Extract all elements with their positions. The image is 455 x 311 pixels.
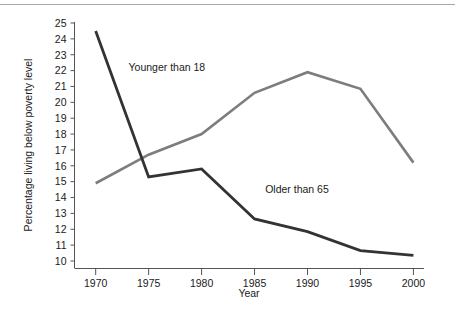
y-axis-title: Percentage living below poverty level <box>22 59 34 232</box>
series-annotation-younger-than-18: Younger than 18 <box>129 61 206 73</box>
y-axis-group: 10111213141516171819202122232425 Percent… <box>22 17 75 268</box>
x-tick-label: 1980 <box>190 277 214 289</box>
series-line-younger-than-18 <box>96 72 414 183</box>
line-chart-canvas: 10111213141516171819202122232425 Percent… <box>0 0 455 311</box>
chart-figure: 10111213141516171819202122232425 Percent… <box>0 0 455 311</box>
x-tick-label: 1990 <box>296 277 320 289</box>
y-tick-label: 18 <box>55 128 67 140</box>
y-axis-ticks <box>71 23 75 261</box>
x-tick-label: 1970 <box>84 277 108 289</box>
y-axis-tick-labels: 10111213141516171819202122232425 <box>55 17 67 267</box>
y-tick-label: 24 <box>55 33 67 45</box>
y-tick-label: 14 <box>55 191 67 203</box>
y-tick-label: 17 <box>55 144 67 156</box>
series-annotation-older-than-65: Older than 65 <box>265 183 329 195</box>
x-axis-group: 1970197519801985199019952000 Year <box>75 269 426 300</box>
y-tick-label: 22 <box>55 64 67 76</box>
y-tick-label: 19 <box>55 112 67 124</box>
y-tick-label: 25 <box>55 17 67 29</box>
x-axis-ticks <box>96 269 414 276</box>
y-tick-label: 10 <box>55 255 67 267</box>
y-tick-label: 15 <box>55 175 67 187</box>
x-tick-label: 1995 <box>349 277 373 289</box>
y-tick-label: 13 <box>55 207 67 219</box>
y-tick-label: 12 <box>55 223 67 235</box>
x-tick-label: 1975 <box>137 277 161 289</box>
y-tick-label: 23 <box>55 49 67 61</box>
y-tick-label: 16 <box>55 160 67 172</box>
y-tick-label: 11 <box>56 239 67 251</box>
y-tick-label: 21 <box>55 80 67 92</box>
x-tick-label: 2000 <box>402 277 426 289</box>
y-tick-label: 20 <box>55 96 67 108</box>
x-axis-title: Year <box>238 287 260 299</box>
